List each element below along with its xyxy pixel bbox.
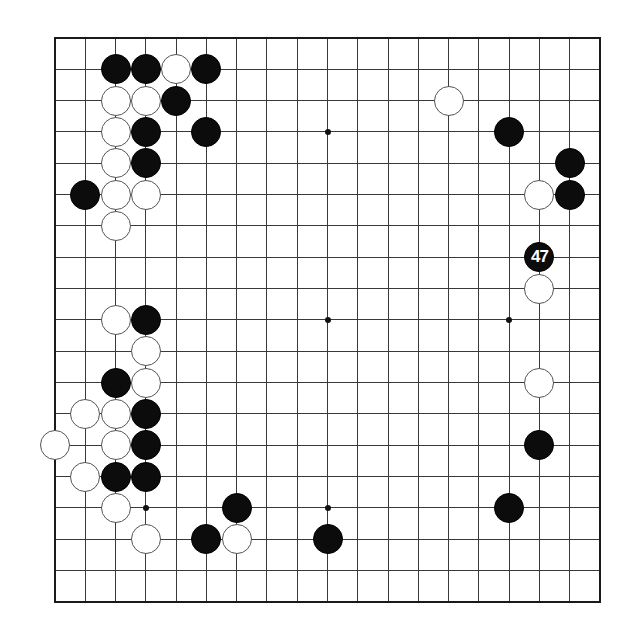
white-stone[interactable] (434, 86, 464, 116)
black-stone[interactable] (555, 180, 585, 210)
black-stone[interactable] (555, 148, 585, 178)
white-stone[interactable] (70, 462, 100, 492)
white-stone[interactable] (524, 274, 554, 304)
black-stone[interactable] (131, 305, 161, 335)
white-stone[interactable] (101, 493, 131, 523)
white-stone[interactable] (131, 368, 161, 398)
black-stone[interactable] (101, 54, 131, 84)
black-stone[interactable] (222, 493, 252, 523)
black-stone[interactable] (101, 368, 131, 398)
white-stone[interactable] (101, 305, 131, 335)
black-stone[interactable] (70, 180, 100, 210)
white-stone[interactable] (131, 86, 161, 116)
white-stone[interactable] (131, 336, 161, 366)
black-stone[interactable] (131, 462, 161, 492)
white-stone[interactable] (101, 430, 131, 460)
black-stone[interactable] (131, 430, 161, 460)
black-stone[interactable] (131, 399, 161, 429)
black-stone[interactable] (313, 524, 343, 554)
white-stone[interactable] (222, 524, 252, 554)
white-stone[interactable] (524, 368, 554, 398)
star-point (325, 129, 331, 135)
white-stone[interactable] (524, 180, 554, 210)
star-point (325, 505, 331, 511)
go-board[interactable]: 47 (0, 0, 642, 644)
black-stone[interactable] (494, 493, 524, 523)
white-stone[interactable] (101, 117, 131, 147)
white-stone[interactable] (101, 148, 131, 178)
black-stone[interactable] (131, 148, 161, 178)
move-number-label: 47 (531, 247, 548, 267)
black-stone[interactable] (494, 117, 524, 147)
white-stone[interactable] (131, 524, 161, 554)
white-stone[interactable] (131, 180, 161, 210)
white-stone[interactable] (101, 180, 131, 210)
white-stone[interactable] (101, 211, 131, 241)
black-stone[interactable] (131, 117, 161, 147)
black-stone[interactable] (101, 462, 131, 492)
black-stone[interactable] (131, 54, 161, 84)
star-point (325, 317, 331, 323)
white-stone[interactable] (101, 86, 131, 116)
black-stone[interactable] (161, 86, 191, 116)
star-point (143, 505, 149, 511)
white-stone[interactable] (101, 399, 131, 429)
